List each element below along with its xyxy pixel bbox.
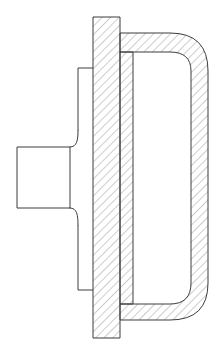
- inner-wall-section: [120, 52, 133, 304]
- technical-drawing-canvas: [0, 0, 223, 353]
- flange-plate-section: [93, 17, 120, 338]
- section-view-svg: [0, 0, 223, 353]
